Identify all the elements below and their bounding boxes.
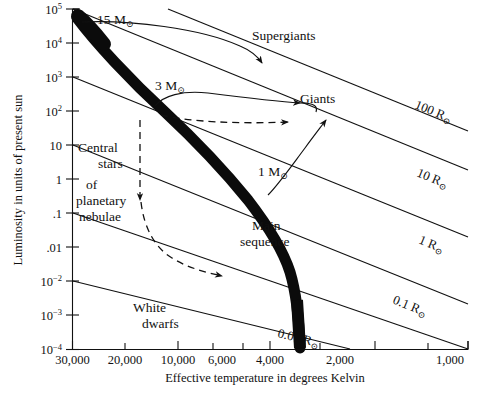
- radius-label-01: 0.1 R⊙: [390, 292, 429, 321]
- x-tick-label-30000: 30,000: [55, 353, 89, 367]
- region-label-central-stars-line2: stars: [98, 156, 123, 171]
- y-axis-title: Luminosity in units of present sun: [11, 94, 25, 266]
- x-axis-title: Effective temperature in degrees Kelvin: [165, 371, 365, 385]
- x-tick-label-1000: 1,000: [436, 353, 464, 367]
- y-tick-label-1e5: 105: [45, 1, 62, 17]
- x-axis-ticks: [73, 341, 469, 350]
- evolution-track-3msun: [155, 92, 316, 123]
- region-label-central-stars-line4: planetary: [76, 193, 126, 208]
- y-tick-label-point01: .01: [46, 241, 62, 255]
- evolution-track-1msun: [268, 120, 326, 195]
- radius-label-100: 100 R⊙: [412, 97, 454, 127]
- y-tick-label-1e2: 102: [45, 103, 62, 119]
- region-label-central-stars-line5: nebulae: [79, 209, 121, 224]
- mass-label-3msun: 3 M⊙: [155, 78, 185, 95]
- x-tick-label-10000: 10,000: [161, 353, 195, 367]
- hr-diagram-canvas: 105 104 103 102 10 1 .1 .01 10−2 10−3 10…: [0, 0, 482, 401]
- mass-label-15msun: 15 M⊙: [97, 12, 133, 29]
- x-tick-label-6000: 6,000: [208, 353, 236, 367]
- x-axis-tick-labels: 30,000 20,000 10,000 6,000 4,000 2,000 1…: [55, 353, 464, 367]
- region-label-main-sequence-line1: Main: [252, 218, 281, 233]
- x-tick-label-2000: 2,000: [326, 353, 354, 367]
- y-tick-label-10: 10: [50, 139, 63, 153]
- y-tick-label-point1: .1: [53, 207, 62, 221]
- radius-label-10: 10 R⊙: [414, 165, 450, 193]
- hr-diagram-figure: 105 104 103 102 10 1 .1 .01 10−2 10−3 10…: [0, 0, 482, 401]
- x-tick-label-20000: 20,000: [108, 353, 142, 367]
- region-label-main-sequence-line2: sequence: [240, 234, 289, 249]
- mass-label-1msun: 1 M⊙: [258, 164, 288, 181]
- radius-label-1: 1 R⊙: [416, 232, 446, 257]
- y-tick-label-1em3: 10−3: [40, 307, 62, 323]
- x-tick-label-4000: 4,000: [256, 353, 284, 367]
- region-label-giants: Giants: [300, 91, 335, 106]
- region-label-white-dwarfs-line1: White: [133, 300, 166, 315]
- radius-line-10: [73, 77, 468, 237]
- main-sequence-band: [77, 18, 300, 348]
- y-tick-label-1e3: 103: [45, 69, 62, 85]
- y-axis-tick-labels: 105 104 103 102 10 1 .1 .01 10−2 10−3 10…: [40, 1, 62, 357]
- main-sequence-band-bottom: [297, 300, 300, 348]
- pn-track-to-white-dwarfs: [141, 202, 222, 276]
- region-label-white-dwarfs-line2: dwarfs: [142, 316, 179, 331]
- y-tick-label-1em2: 10−2: [40, 273, 62, 289]
- region-label-central-stars-line3: of: [86, 177, 98, 192]
- evolution-track-planetary-nebula: [140, 120, 222, 276]
- region-label-central-stars-line1: Central: [78, 140, 118, 155]
- y-tick-label-1: 1: [56, 173, 62, 187]
- y-tick-label-1e4: 104: [45, 35, 63, 51]
- region-label-supergiants: Supergiants: [252, 28, 316, 43]
